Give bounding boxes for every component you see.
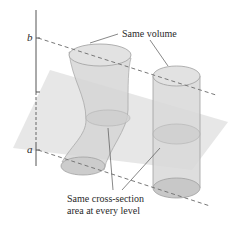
- slanted-solid-top: [69, 44, 131, 66]
- label-b: b: [27, 31, 33, 43]
- label-a: a: [27, 143, 33, 155]
- cylinder-section: [153, 124, 200, 144]
- leader-volume-left: [90, 34, 118, 43]
- annotation-cross-section-line2: area at every level: [67, 205, 140, 216]
- straight-cylinder: [153, 66, 200, 198]
- slanted-solid-section: [86, 110, 130, 126]
- volume-diagram: b a Same volume Same cross-section area …: [0, 0, 236, 227]
- annotation-same-volume: Same volume: [122, 28, 177, 39]
- annotation-cross-section-line1: Same cross-section: [67, 193, 144, 204]
- cylinder-bottom: [153, 178, 200, 198]
- cylinder-top: [153, 66, 200, 86]
- leader-volume-right: [150, 40, 168, 66]
